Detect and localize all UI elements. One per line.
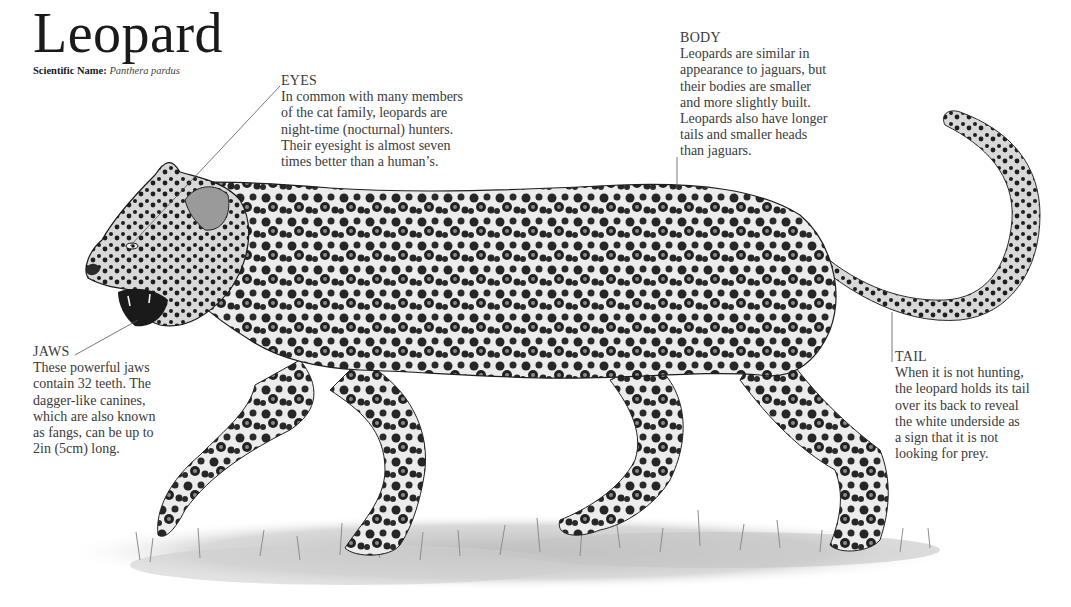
- annotation-eyes-text: In common with many members of the cat f…: [281, 89, 501, 170]
- annotation-eyes-heading: EYES: [281, 73, 501, 89]
- annotation-body-text: Leopards are similar in appearance to ja…: [680, 46, 855, 159]
- annotation-body-heading: BODY: [680, 30, 855, 46]
- annotation-tail: TAIL When it is not hunting, the leopard…: [895, 349, 1055, 462]
- annotation-tail-text: When it is not hunting, the leopard hold…: [895, 365, 1055, 462]
- annotation-tail-heading: TAIL: [895, 349, 1055, 365]
- annotation-jaws: JAWS These powerful jaws contain 32 teet…: [33, 344, 183, 457]
- annotation-eyes: EYES In common with many members of the …: [281, 73, 501, 170]
- leopard-body: [160, 182, 836, 378]
- annotation-jaws-text: These powerful jaws contain 32 teeth. Th…: [33, 360, 183, 457]
- ground-grass: [60, 510, 960, 590]
- annotation-jaws-heading: JAWS: [33, 344, 183, 360]
- leopard-illustration: [0, 0, 1071, 607]
- annotation-body: BODY Leopards are similar in appearance …: [680, 30, 855, 160]
- leopard-hind-leg-front: [559, 360, 683, 535]
